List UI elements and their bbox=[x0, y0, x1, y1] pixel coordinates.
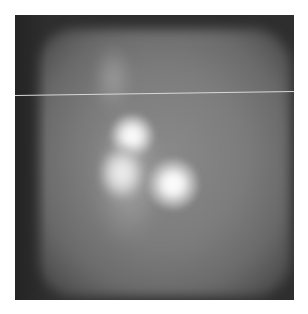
faint-upper-blob bbox=[93, 43, 133, 113]
left-dark-band bbox=[15, 15, 47, 300]
scan-image bbox=[15, 15, 294, 300]
mid-left-hotspot bbox=[100, 147, 144, 199]
lower-right-hotspot bbox=[148, 159, 198, 209]
